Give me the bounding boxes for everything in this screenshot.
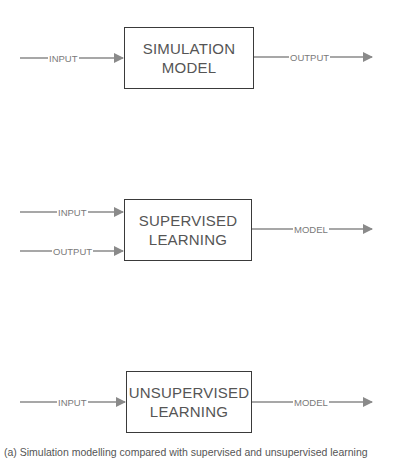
- input-label: INPUT: [48, 53, 79, 64]
- figure-caption: (a) Simulation modelling compared with s…: [4, 446, 368, 458]
- output-input-label: OUTPUT: [52, 246, 93, 257]
- model-label: MODEL: [293, 397, 329, 408]
- block-title-line1: UNSUPERVISED: [129, 383, 250, 402]
- output-label: OUTPUT: [289, 52, 330, 63]
- block-title-line2: LEARNING: [150, 402, 228, 421]
- block-title-line2: MODEL: [162, 58, 216, 77]
- block-title-line2: LEARNING: [149, 230, 227, 249]
- input-label: INPUT: [57, 397, 88, 408]
- unsupervised-learning-block: UNSUPERVISED LEARNING: [126, 371, 252, 433]
- supervised-learning-block: SUPERVISED LEARNING: [124, 199, 252, 261]
- block-title-line1: SIMULATION: [143, 39, 236, 58]
- input-label: INPUT: [57, 207, 88, 218]
- block-title-line1: SUPERVISED: [139, 211, 237, 230]
- simulation-model-block: SIMULATION MODEL: [124, 27, 254, 89]
- model-label: MODEL: [293, 224, 329, 235]
